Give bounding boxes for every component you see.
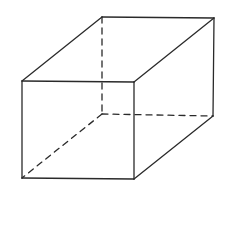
edge-back_top_right-back_bottom_right (213, 18, 214, 116)
cuboid-diagram (0, 0, 229, 225)
edge-back_top_left-back_top_right (102, 17, 214, 18)
edge-front_top_left-back_top_left (22, 17, 102, 81)
edge-back_top_right-front_top_right (134, 18, 214, 82)
hidden-edge-back_bottom_left-back_bottom_right (102, 114, 213, 116)
hidden-edge-back_bottom_left-front_bottom_left (22, 114, 102, 178)
edge-front_bottom_right-front_bottom_left (22, 178, 134, 179)
edge-back_bottom_right-front_bottom_right (134, 116, 213, 179)
edge-front_top_left-front_top_right (22, 81, 134, 82)
